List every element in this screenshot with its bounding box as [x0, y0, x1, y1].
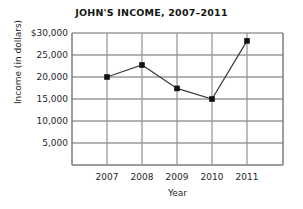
x-tick-label-2010: 2010: [201, 172, 224, 182]
x-tick-label-2008: 2008: [131, 172, 154, 182]
income-line-chart: JOHN'S INCOME, 2007–2011 Income (in doll…: [0, 0, 303, 209]
data-point-2007: [104, 74, 110, 80]
data-point-2011: [244, 38, 250, 44]
data-point-2009: [174, 86, 180, 92]
grid-lines: [72, 33, 283, 165]
data-point-2010: [209, 96, 215, 102]
x-axis-title: Year: [72, 188, 283, 198]
x-tick-label-2007: 2007: [96, 172, 119, 182]
data-point-2008: [139, 62, 145, 68]
x-tick-label-2011: 2011: [236, 172, 259, 182]
x-tick-label-2009: 2009: [166, 172, 189, 182]
